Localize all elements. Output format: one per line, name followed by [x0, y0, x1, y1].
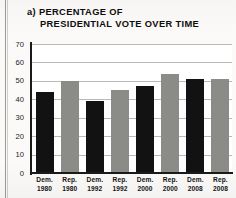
x-tick-party: Dem. [133, 176, 158, 185]
x-tick-dem-1980: Dem.1980 [32, 176, 57, 193]
y-tick-40: 40 [0, 95, 24, 104]
y-tick-60: 60 [0, 58, 24, 67]
bar-dem-2008 [186, 79, 204, 173]
x-tick-party: Dem. [32, 176, 57, 185]
x-tick-year: 2000 [133, 185, 158, 194]
x-tick-dem-2000: Dem.2000 [133, 176, 158, 193]
bar-dem-1980 [36, 92, 54, 173]
x-tick-year: 1992 [82, 185, 107, 194]
x-tick-rep-1992: Rep.1992 [107, 176, 132, 193]
x-tick-party: Rep. [208, 176, 233, 185]
x-tick-year: 2008 [183, 185, 208, 194]
x-tick-dem-1992: Dem.1992 [82, 176, 107, 193]
x-tick-party: Dem. [183, 176, 208, 185]
x-tick-year: 1980 [57, 185, 82, 194]
bar-rep-1992 [111, 90, 129, 173]
figure-panel: a) PERCENTAGE OF PRESIDENTIAL VOTE OVER … [0, 0, 236, 198]
plot-area [31, 44, 232, 173]
y-tick-30: 30 [0, 113, 24, 122]
x-tick-rep-2000: Rep.2000 [158, 176, 183, 193]
x-tick-year: 2008 [208, 185, 233, 194]
bar-dem-2000 [136, 86, 154, 173]
bar-rep-2008 [211, 79, 229, 173]
gridline-70 [31, 44, 232, 45]
y-tick-50: 50 [0, 76, 24, 85]
x-tick-party: Dem. [82, 176, 107, 185]
x-axis-line [30, 172, 233, 174]
x-tick-year: 1992 [107, 185, 132, 194]
x-tick-rep-2008: Rep.2008 [208, 176, 233, 193]
chart-title-line-1: a) PERCENTAGE OF [27, 7, 123, 17]
bar-dem-1992 [86, 101, 104, 173]
x-tick-party: Rep. [158, 176, 183, 185]
x-tick-party: Rep. [57, 176, 82, 185]
y-tick-0: 0 [0, 169, 24, 178]
y-axis-tick-labels: 010203040506070 [0, 44, 28, 177]
y-tick-20: 20 [0, 132, 24, 141]
y-axis-line [30, 42, 32, 175]
x-tick-rep-1980: Rep.1980 [57, 176, 82, 193]
chart-title: a) PERCENTAGE OF PRESIDENTIAL VOTE OVER … [27, 6, 232, 30]
bar-rep-2000 [161, 74, 179, 174]
chart-title-line-2: PRESIDENTIAL VOTE OVER TIME [27, 18, 232, 30]
x-tick-party: Rep. [107, 176, 132, 185]
bar-rep-1980 [61, 81, 79, 173]
x-tick-year: 2000 [158, 185, 183, 194]
y-tick-10: 10 [0, 150, 24, 159]
x-tick-year: 1980 [32, 185, 57, 194]
x-tick-dem-2008: Dem.2008 [183, 176, 208, 193]
y-tick-70: 70 [0, 40, 24, 49]
gridline-60 [31, 62, 232, 63]
x-axis-tick-labels: Dem.1980Rep.1980Dem.1992Rep.1992Dem.2000… [31, 176, 232, 198]
